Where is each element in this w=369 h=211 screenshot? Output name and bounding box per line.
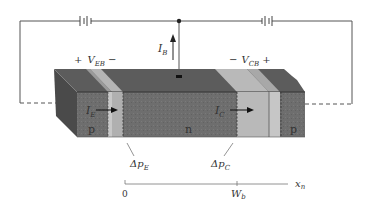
emitter-depletion xyxy=(108,92,112,137)
emitter-delta-pe-region xyxy=(112,92,123,137)
collector-region-label: p xyxy=(290,123,297,136)
delta-pc-leader xyxy=(224,143,233,156)
collector-delta-pc-region xyxy=(237,92,269,137)
delta-pc-label: ΔpC xyxy=(210,158,231,172)
vcb-label: −VCB+ xyxy=(229,54,271,68)
base-region-label: n xyxy=(185,123,192,136)
battery-eb-icon xyxy=(80,16,91,26)
ib-arrow-icon xyxy=(170,34,176,60)
axis-wb-label: Wb xyxy=(231,188,246,201)
position-axis xyxy=(125,180,288,186)
base-contact xyxy=(176,75,182,78)
transistor-diagram: IB +VEB− −VCB+ IE IC p n p ΔpE ΔpC xyxy=(0,0,369,211)
delta-pe-leader xyxy=(127,143,134,156)
base-node xyxy=(177,19,181,23)
veb-label: +VEB− xyxy=(74,54,116,68)
collector-depletion xyxy=(269,92,280,137)
axis-origin-label: 0 xyxy=(122,189,128,199)
ib-label: IB xyxy=(157,42,168,57)
axis-xn-label: xn xyxy=(295,178,306,191)
delta-pe-label: ΔpE xyxy=(129,158,149,172)
emitter-region-label: p xyxy=(88,123,95,136)
battery-cb-icon xyxy=(262,16,272,26)
